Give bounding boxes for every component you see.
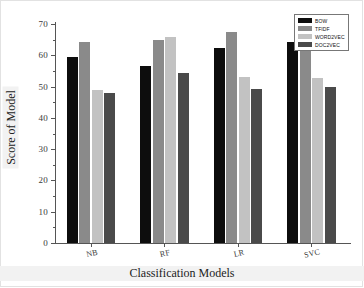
y-tick-label: 10 (39, 207, 48, 217)
y-tick-mark (51, 212, 56, 213)
legend-label: DOC2VEC (315, 42, 340, 48)
bar-chart-figure: 010203040506070 NBRFLRSVC Score of Model… (0, 0, 364, 288)
bar (287, 42, 298, 243)
bar (178, 73, 189, 243)
y-minor-tick-mark (53, 134, 56, 135)
y-tick-mark (51, 24, 56, 25)
legend-label: WORD2VEC (315, 34, 345, 40)
y-tick-label: 20 (39, 175, 48, 185)
x-axis-title: Classification Models (0, 266, 364, 281)
y-tick-label: 40 (39, 113, 48, 123)
y-tick-label: 30 (39, 144, 48, 154)
x-axis-title-text: Classification Models (126, 266, 239, 280)
y-minor-tick-mark (53, 165, 56, 166)
legend-item: DOC2VEC (298, 41, 345, 48)
x-tick-label: NB (85, 248, 98, 259)
x-tick-mark (91, 243, 92, 247)
bar (325, 87, 336, 243)
y-axis-title: Score of Model (4, 73, 19, 183)
y-tick-mark (51, 180, 56, 181)
y-minor-tick-mark (53, 227, 56, 228)
y-tick-mark (51, 149, 56, 150)
legend-swatch (298, 26, 312, 31)
bar (165, 37, 176, 243)
bar (140, 66, 151, 243)
y-tick-label: 70 (39, 19, 48, 29)
legend: BOWTFIDFWORD2VECDOC2VEC (294, 14, 349, 51)
legend-item: TFIDF (298, 25, 345, 32)
legend-swatch (298, 34, 312, 39)
x-tick-label: SVC (303, 247, 321, 259)
x-tick-mark (238, 243, 239, 247)
bar (300, 35, 311, 243)
legend-label: BOW (315, 18, 327, 24)
x-tick-mark (311, 243, 312, 247)
bar (214, 48, 225, 243)
bar (153, 40, 164, 243)
legend-swatch (298, 42, 312, 47)
legend-swatch (298, 18, 312, 23)
y-minor-tick-mark (53, 196, 56, 197)
x-tick-label: LR (233, 248, 245, 259)
y-axis-title-text: Score of Model (3, 86, 19, 169)
y-tick-label: 0 (43, 238, 48, 248)
y-minor-tick-mark (53, 102, 56, 103)
legend-item: WORD2VEC (298, 33, 345, 40)
y-minor-tick-mark (53, 40, 56, 41)
y-tick-mark (51, 87, 56, 88)
bar (312, 78, 323, 243)
y-tick-mark (51, 118, 56, 119)
legend-label: TFIDF (315, 26, 330, 32)
y-tick-label: 60 (39, 50, 48, 60)
x-tick-mark (164, 243, 165, 247)
x-tick-label: RF (159, 248, 171, 259)
y-tick-mark (51, 55, 56, 56)
bar (104, 93, 115, 243)
bar (251, 89, 262, 243)
bar (92, 90, 103, 243)
bar (79, 42, 90, 243)
bar (226, 32, 237, 243)
y-tick-label: 50 (39, 82, 48, 92)
bar (239, 77, 250, 243)
y-minor-tick-mark (53, 71, 56, 72)
legend-item: BOW (298, 17, 345, 24)
x-axis-line (55, 243, 351, 244)
y-tick-mark (51, 243, 56, 244)
plot-area: 010203040506070 (56, 24, 350, 243)
bar (67, 57, 78, 243)
